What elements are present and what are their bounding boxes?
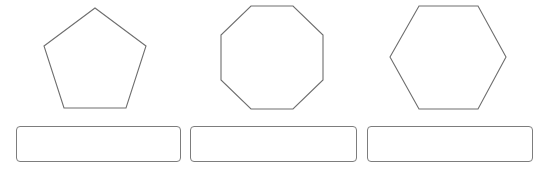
- hexagon-answer-box[interactable]: [367, 126, 533, 162]
- hexagon-shape: [390, 6, 506, 109]
- pentagon-answer-box[interactable]: [16, 126, 181, 162]
- octagon-shape: [221, 6, 323, 109]
- octagon-answer-box[interactable]: [190, 126, 357, 162]
- shapes-figure: [0, 0, 550, 120]
- pentagon-shape: [44, 8, 146, 108]
